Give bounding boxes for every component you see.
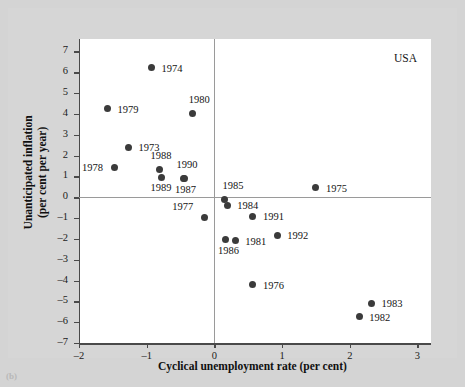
- x-axis-tick: [417, 343, 418, 348]
- y-axis-tick-label: 4: [48, 107, 68, 118]
- x-axis-tick-label: 1: [271, 350, 293, 361]
- x-axis-tick-label: 3: [406, 350, 428, 361]
- data-point-label: 1976: [263, 280, 284, 291]
- y-axis-tick-label: 0: [48, 190, 68, 201]
- data-point-label: 1992: [287, 230, 308, 241]
- y-axis-tick-label: –2: [48, 232, 68, 243]
- y-axis-tick-label: –5: [48, 294, 68, 305]
- figure-panel: Unanticipated inflation(per cent per yea…: [8, 8, 457, 358]
- y-axis-tick: [74, 176, 79, 177]
- data-point-label: 1991: [263, 211, 284, 222]
- y-axis-tick: [74, 135, 79, 136]
- y-axis-tick: [74, 156, 79, 157]
- data-point: [125, 144, 132, 151]
- data-point-label: 1981: [245, 236, 266, 247]
- y-axis-tick: [74, 93, 79, 94]
- data-point: [232, 237, 239, 244]
- data-point: [189, 110, 196, 117]
- y-axis-tick-label: 5: [48, 86, 68, 97]
- y-axis-tick-label: 6: [48, 65, 68, 76]
- y-axis-tick-label: –1: [48, 211, 68, 222]
- y-axis-tick: [74, 322, 79, 323]
- data-point-label: 1986: [218, 245, 239, 256]
- y-axis-label-line1: Unanticipated inflation: [21, 82, 35, 262]
- data-point-label: 1980: [189, 94, 210, 105]
- x-axis-line: [79, 343, 431, 345]
- data-point-label: 1985: [223, 180, 244, 191]
- y-axis-tick: [74, 114, 79, 115]
- data-point-label: 1974: [161, 63, 182, 74]
- y-axis-tick-label: 1: [48, 169, 68, 180]
- data-point: [158, 174, 165, 181]
- data-point-label: 1975: [326, 183, 347, 194]
- x-axis-label: Cyclical unemployment rate (per cent): [158, 360, 347, 372]
- x-axis-tick: [282, 343, 283, 348]
- y-axis-tick: [74, 301, 79, 302]
- data-point: [181, 175, 188, 182]
- data-point-label: 1987: [175, 184, 196, 195]
- x-axis-tick-label: –1: [136, 350, 158, 361]
- data-point-label: 1983: [381, 298, 402, 309]
- y-axis-tick-label: 7: [48, 44, 68, 55]
- y-axis-tick-label: –6: [48, 315, 68, 326]
- x-axis-tick-label: 2: [339, 350, 361, 361]
- y-axis-tick: [74, 218, 79, 219]
- y-axis-tick-label: 2: [48, 149, 68, 160]
- x-axis-tick: [214, 343, 215, 348]
- data-point: [148, 64, 155, 71]
- data-point: [156, 166, 163, 173]
- x-axis-tick-label: 0: [203, 350, 225, 361]
- data-point-label: 1984: [237, 200, 258, 211]
- y-axis-tick: [74, 51, 79, 52]
- x-axis-tick: [79, 343, 80, 348]
- data-point-label: 1989: [151, 182, 172, 193]
- data-point: [111, 164, 118, 171]
- figure-caption: (b): [6, 371, 17, 381]
- y-axis-tick: [74, 72, 79, 73]
- figure-container: Unanticipated inflation(per cent per yea…: [0, 0, 465, 387]
- data-point-label: 1979: [117, 104, 138, 115]
- data-point-label: 1988: [151, 150, 172, 161]
- data-point-label: 1982: [369, 312, 390, 323]
- x-axis-tick: [350, 343, 351, 348]
- y-axis-label: Unanticipated inflation(per cent per yea…: [21, 82, 50, 262]
- data-point-label: 1978: [82, 162, 103, 173]
- zero-line-vertical: [214, 39, 215, 343]
- x-axis-tick-label: –2: [68, 350, 90, 361]
- data-point: [201, 214, 208, 221]
- plot-area: [79, 39, 431, 343]
- y-axis-tick: [74, 197, 79, 198]
- data-point: [274, 232, 281, 239]
- data-point-label: 1977: [172, 201, 193, 212]
- y-axis-tick-label: 3: [48, 128, 68, 139]
- data-point-label: 1990: [177, 159, 198, 170]
- y-axis-tick: [74, 260, 79, 261]
- y-axis-tick-label: –3: [48, 253, 68, 264]
- y-axis-tick-label: –7: [48, 336, 68, 347]
- x-axis-tick: [147, 343, 148, 348]
- y-axis-tick: [74, 239, 79, 240]
- zero-line-horizontal: [79, 197, 431, 198]
- data-point: [368, 300, 375, 307]
- y-axis-tick-label: –4: [48, 274, 68, 285]
- y-axis-tick: [74, 281, 79, 282]
- country-annotation: USA: [394, 52, 417, 64]
